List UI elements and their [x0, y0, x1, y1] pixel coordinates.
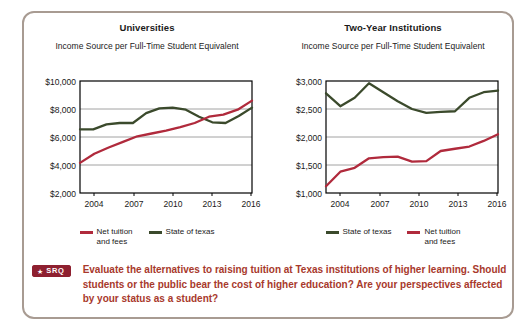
- star-icon: ★: [37, 268, 43, 275]
- line-chart-two-year-svg: $3,000 $2,500 $2,000 $1,500 $1,000: [270, 75, 516, 215]
- x-axis-labels-two-year: 2004 2007 2010 2013 2016: [331, 199, 507, 209]
- legend-swatch-red-icon: [80, 231, 93, 234]
- legend-label-state-of-texas: State of texas: [343, 227, 392, 237]
- x-axis-labels-universities: 2004 2007 2010 2013 2016: [85, 199, 261, 209]
- y-tick-two-year-4: $3,000: [296, 77, 322, 87]
- x-tick-universities-2: 2010: [164, 199, 183, 209]
- legend-item-state-of-texas-universities: State of texas: [149, 227, 215, 247]
- y-tick-universities-2: $6,000: [50, 133, 76, 143]
- legend-label-state-of-texas: State of texas: [166, 227, 215, 237]
- figure-page: Universities Income Source per Full-Time…: [0, 0, 532, 332]
- chart-subtitle-universities: Income Source per Full-Time Student Equi…: [24, 41, 270, 52]
- y-tick-universities-1: $4,000: [50, 161, 76, 171]
- line-chart-universities-svg: $10,000 $8,000 $6,000 $4,000 $2,000: [24, 75, 270, 215]
- series-line-net-tuition-universities: [80, 101, 252, 163]
- page-top-cut-edge: [0, 0, 532, 9]
- x-tick-two-year-1: 2007: [371, 199, 390, 209]
- legend-item-net-tuition-two-year: Net tuition and fees: [407, 227, 460, 247]
- series-line-state-of-texas-universities: [80, 108, 252, 130]
- chart-title-two-year: Two-Year Institutions: [270, 22, 516, 33]
- x-tick-two-year-4: 2016: [488, 199, 507, 209]
- legend-label-net-tuition: Net tuition and fees: [424, 227, 460, 247]
- y-tick-universities-4: $10,000: [45, 77, 76, 87]
- x-tick-universities-3: 2013: [203, 199, 222, 209]
- srq-badge: ★ SRQ: [32, 265, 71, 277]
- plot-area-universities: $10,000 $8,000 $6,000 $4,000 $2,000: [24, 75, 270, 215]
- x-tick-two-year-3: 2013: [449, 199, 468, 209]
- chart-universities: Universities Income Source per Full-Time…: [24, 13, 270, 258]
- y-axis-labels-universities: $10,000 $8,000 $6,000 $4,000 $2,000: [45, 77, 76, 199]
- x-tick-universities-4: 2016: [242, 199, 261, 209]
- legend-swatch-green-icon: [326, 231, 339, 234]
- y-axis-labels-two-year: $3,000 $2,500 $2,000 $1,500 $1,000: [296, 77, 322, 199]
- y-tick-two-year-0: $1,000: [296, 189, 322, 199]
- y-tick-two-year-1: $1,500: [296, 161, 322, 171]
- chart-subtitle-two-year: Income Source per Full-Time Student Equi…: [270, 41, 516, 52]
- legend-universities: Net tuition and fees State of texas: [24, 227, 270, 247]
- x-tick-universities-0: 2004: [85, 199, 104, 209]
- legend-item-net-tuition-universities: Net tuition and fees: [80, 227, 133, 247]
- legend-two-year: State of texas Net tuition and fees: [270, 227, 516, 247]
- x-tick-two-year-2: 2010: [410, 199, 429, 209]
- legend-swatch-green-icon: [149, 231, 162, 234]
- legend-item-state-of-texas-two-year: State of texas: [326, 227, 392, 247]
- series-line-net-tuition-two-year: [326, 134, 498, 186]
- plot-area-two-year: $3,000 $2,500 $2,000 $1,500 $1,000: [270, 75, 516, 215]
- y-tick-universities-3: $8,000: [50, 105, 76, 115]
- srq-badge-label: SRQ: [46, 267, 64, 275]
- figure-panel: Universities Income Source per Full-Time…: [22, 11, 514, 319]
- gridlines-two-year: [326, 109, 498, 165]
- legend-swatch-red-icon: [407, 231, 420, 234]
- chart-title-universities: Universities: [24, 22, 270, 33]
- srq-prompt-text: Evaluate the alternatives to raising tui…: [83, 263, 516, 307]
- srq-row: ★ SRQ Evaluate the alternatives to raisi…: [24, 263, 516, 319]
- y-tick-two-year-3: $2,500: [296, 105, 322, 115]
- chart-two-year-institutions: Two-Year Institutions Income Source per …: [270, 13, 516, 258]
- x-tick-universities-1: 2007: [125, 199, 144, 209]
- y-tick-two-year-2: $2,000: [296, 133, 322, 143]
- y-tick-universities-0: $2,000: [50, 189, 76, 199]
- series-line-state-of-texas-two-year: [326, 83, 498, 113]
- legend-label-net-tuition: Net tuition and fees: [97, 227, 133, 247]
- x-tick-two-year-0: 2004: [331, 199, 350, 209]
- charts-container: Universities Income Source per Full-Time…: [24, 13, 516, 258]
- gridlines-universities: [80, 109, 252, 165]
